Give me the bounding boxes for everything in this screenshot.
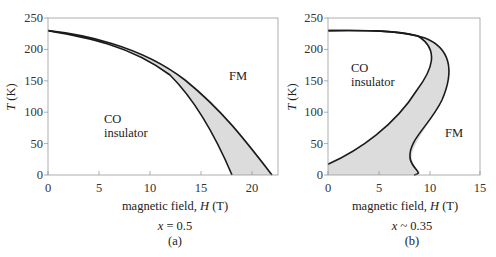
panel-a-caption: (a) xyxy=(168,234,182,248)
phase-diagram-figure: 250 200 150 100 50 0 T (K) 0 5 10 15 20 … xyxy=(0,0,496,257)
panel-a-region-fm: FM xyxy=(229,69,247,83)
panel-a: 250 200 150 100 50 0 T (K) 0 5 10 15 20 … xyxy=(4,11,278,248)
panel-b-y-axis-label: T (K) xyxy=(285,83,299,110)
panel-b-region-fm: FM xyxy=(445,126,463,140)
x-tick-label: 15 xyxy=(474,181,487,195)
x-tick-label: 20 xyxy=(246,181,259,195)
panel-b-y-axis: 250 200 150 100 50 0 T (K) xyxy=(285,11,328,182)
y-tick-label: 200 xyxy=(304,42,323,56)
panel-b-x-axis: 0 5 10 15 magnetic field, H (T) xyxy=(325,171,486,213)
y-tick-label: 100 xyxy=(304,105,323,119)
panel-b-caption: (b) xyxy=(405,234,420,248)
x-tick-label: 0 xyxy=(325,181,331,195)
panel-a-y-axis-label: T (K) xyxy=(4,83,18,110)
panel-a-x-axis-label: magnetic field, H (T) xyxy=(122,199,228,213)
x-tick-label: 15 xyxy=(195,181,208,195)
panel-a-y-axis: 250 200 150 100 50 0 T (K) xyxy=(4,11,48,182)
x-tick-label: 5 xyxy=(376,181,382,195)
y-tick-label: 150 xyxy=(304,74,323,88)
y-tick-label: 50 xyxy=(31,137,44,151)
panel-a-composition: x = 0.5 xyxy=(157,219,193,233)
panel-b-region-insulator: insulator xyxy=(351,75,396,89)
panel-b-x-axis-label: magnetic field, H (T) xyxy=(352,199,458,213)
x-tick-label: 5 xyxy=(96,181,102,195)
panel-b-region-co: CO xyxy=(351,61,368,75)
x-tick-label: 10 xyxy=(144,181,157,195)
panel-a-region-insulator: insulator xyxy=(104,126,149,140)
y-tick-label: 250 xyxy=(304,11,323,25)
y-tick-label: 150 xyxy=(24,74,43,88)
panel-a-x-axis: 0 5 10 15 20 magnetic field, H (T) xyxy=(45,171,258,213)
y-tick-label: 0 xyxy=(317,168,323,182)
y-tick-label: 0 xyxy=(37,168,43,182)
panel-a-coexistence-region xyxy=(48,31,272,175)
y-tick-label: 200 xyxy=(24,42,43,56)
x-tick-label: 10 xyxy=(424,181,437,195)
panel-a-region-co: CO xyxy=(104,112,121,126)
panel-b: 250 200 150 100 50 0 T (K) 0 5 10 15 mag… xyxy=(285,11,486,248)
x-tick-label: 0 xyxy=(45,181,51,195)
y-tick-label: 50 xyxy=(311,137,324,151)
y-tick-label: 100 xyxy=(24,105,43,119)
y-tick-label: 250 xyxy=(24,11,43,25)
panel-b-composition: x ~ 0.35 xyxy=(391,219,432,233)
